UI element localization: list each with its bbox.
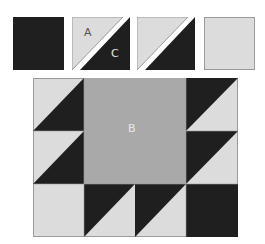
light-square-shape <box>204 17 255 70</box>
label-b: B <box>128 123 136 134</box>
hst-shape <box>137 17 195 70</box>
block-shape <box>33 78 238 237</box>
dark-square-shape <box>13 17 64 70</box>
light-square-piece <box>204 17 255 70</box>
label-a: A <box>84 27 92 38</box>
hst-labeled-shape <box>72 17 130 70</box>
hst-piece-labeled: A C <box>72 17 130 70</box>
hst-piece <box>137 17 195 70</box>
assembled-block: B <box>33 78 238 237</box>
dark-square-piece <box>13 17 64 70</box>
label-c: C <box>111 48 119 59</box>
